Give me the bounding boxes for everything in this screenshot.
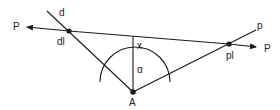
angle-arc xyxy=(100,47,170,82)
point-pl xyxy=(226,41,231,46)
label-x: x xyxy=(137,40,142,51)
label-dl: dl xyxy=(57,36,65,47)
label-alpha: α xyxy=(137,64,143,75)
label-P-right: P xyxy=(264,43,271,54)
line-P-left-arrow xyxy=(27,27,69,31)
point-dl xyxy=(66,28,71,33)
label-pl: pl xyxy=(226,50,234,61)
label-A: A xyxy=(129,97,136,108)
line-P-right-arrow xyxy=(229,44,256,47)
line-d xyxy=(47,11,133,92)
label-p: p xyxy=(257,20,263,31)
geometry-diagram: P P d dl p pl x α A xyxy=(0,0,280,110)
label-d: d xyxy=(59,7,65,18)
line-p xyxy=(133,30,256,92)
label-P-left: P xyxy=(13,21,20,32)
point-A xyxy=(130,89,136,95)
line-P-middle xyxy=(69,31,229,44)
